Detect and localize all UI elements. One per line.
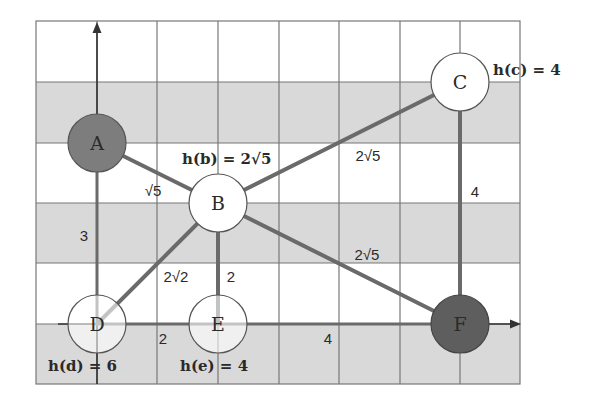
node-f: F [431, 295, 489, 353]
edge-label-e-f: 4 [324, 330, 332, 347]
node-e: E [189, 295, 247, 353]
edge-label-b-d: 2√2 [164, 268, 189, 285]
edge-label-a-d: 3 [80, 227, 88, 244]
y-axis-arrow-icon [93, 22, 102, 33]
svg-text:C: C [453, 71, 468, 93]
node-d: D [68, 295, 126, 353]
edge-label-a-b: √5 [145, 182, 162, 199]
graph-diagram: A B C D E F √5 3 2√5 2√2 2 2√5 4 2 [0, 0, 599, 403]
heuristic-c: h(c) = 4 [493, 61, 561, 79]
edge-label-b-c: 2√5 [356, 147, 381, 164]
edge-label-d-e: 2 [159, 330, 167, 347]
node-b: B [189, 174, 247, 232]
edge-label-b-f: 2√5 [355, 246, 380, 263]
edge-label-c-f: 4 [471, 183, 479, 200]
node-a: A [68, 114, 126, 172]
node-c: C [431, 53, 489, 111]
svg-text:D: D [89, 313, 104, 335]
heuristic-e: h(e) = 4 [180, 357, 248, 375]
heuristic-b: h(b) = 2√5 [182, 150, 271, 168]
svg-text:A: A [89, 132, 104, 154]
svg-text:E: E [211, 313, 225, 335]
heuristic-d: h(d) = 6 [48, 357, 117, 375]
edge-label-b-e: 2 [227, 268, 235, 285]
svg-text:B: B [211, 192, 225, 214]
svg-text:F: F [453, 313, 466, 335]
